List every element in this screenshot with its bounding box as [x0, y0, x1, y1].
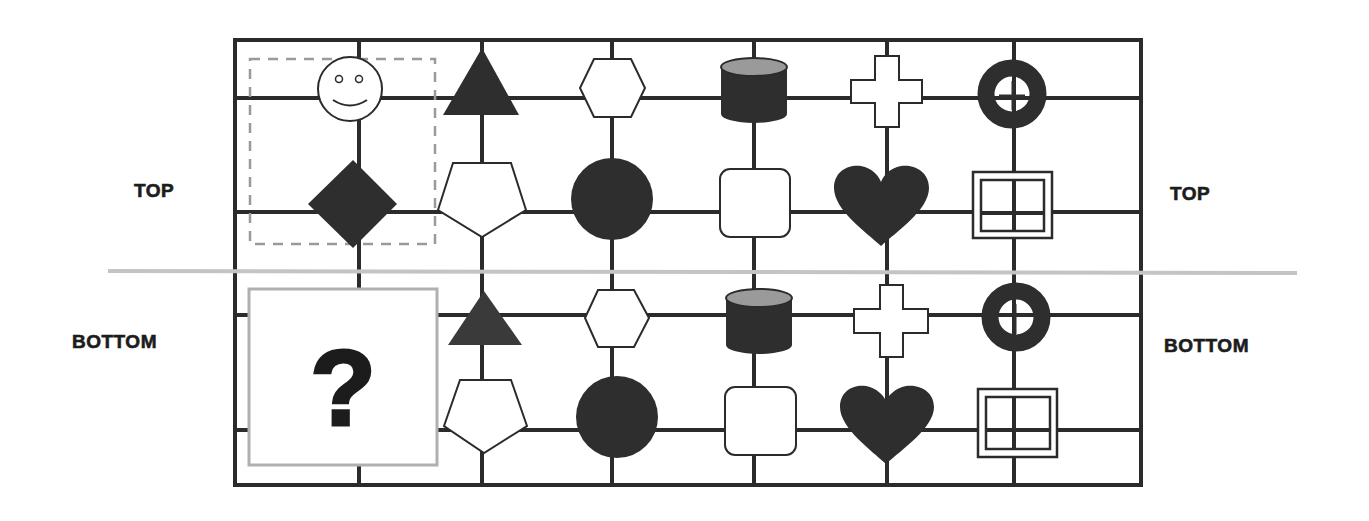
rounded-square-icon [725, 387, 796, 455]
hexagon-icon [585, 290, 649, 347]
filled-triangle-icon [443, 48, 519, 115]
filled-triangle-icon [448, 291, 522, 345]
filled-circle-icon [571, 158, 653, 240]
hexagon-icon [580, 59, 645, 117]
cross-icon [851, 56, 922, 127]
ring-icon [990, 291, 1042, 343]
double-square-grid-icon [973, 172, 1052, 238]
filled-circle-icon [576, 376, 658, 458]
answer-slot[interactable]: ? [249, 289, 437, 465]
pentagon-icon [438, 163, 526, 237]
top-panel [250, 48, 1052, 248]
rounded-square-icon [720, 169, 790, 237]
separator-line [108, 271, 1297, 273]
bottom-panel: ? [249, 285, 1057, 465]
ring-icon [986, 68, 1038, 120]
double-square-grid-icon [978, 389, 1057, 457]
cylinder-icon [721, 58, 787, 123]
cross-icon [854, 285, 928, 357]
filled-diamond-icon [308, 160, 397, 248]
cylinder-icon [726, 289, 792, 354]
filled-heart-icon [834, 166, 929, 246]
question-mark: ? [310, 327, 376, 448]
pentagon-icon [444, 380, 527, 453]
smiley-face-icon [318, 57, 382, 121]
puzzle-board: ? [0, 0, 1369, 521]
